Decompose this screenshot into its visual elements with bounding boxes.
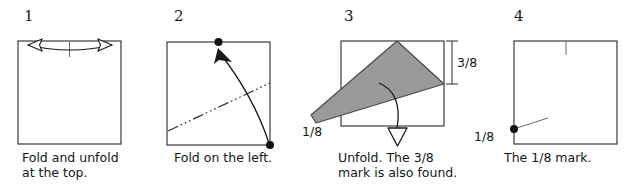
step-panel-2: 2 Fold on the left.	[158, 0, 318, 192]
reference-dot-left-edge	[510, 125, 518, 133]
step-4-diagram: 1/8	[462, 0, 636, 150]
step-panel-3: 3 3/8 1/8 Unfold. The 3/8 mark is also f…	[300, 0, 478, 192]
square-paper	[514, 41, 617, 144]
reference-dot-bottom-right	[266, 141, 274, 149]
step-2-diagram	[158, 0, 318, 150]
step-1-caption: Fold and unfold at the top.	[22, 150, 119, 180]
measure-label-one-eighth: 1/8	[302, 124, 322, 139]
step-3-caption: Unfold. The 3/8 mark is also found.	[338, 150, 457, 180]
reference-dot-top-center	[215, 38, 223, 46]
step-panel-1: 1 Fold and unfold at the top.	[0, 0, 160, 192]
step-4-caption: The 1/8 mark.	[504, 150, 592, 165]
step-1-diagram	[0, 0, 160, 150]
step-2-caption: Fold on the left.	[174, 150, 272, 165]
step-3-diagram: 3/8 1/8	[300, 0, 478, 150]
measure-label-one-eighth: 1/8	[474, 129, 494, 144]
step-panel-4: 4 1/8 The 1/8 mark.	[462, 0, 636, 192]
origami-instruction-figure: 1 Fold and unfold at the top. 2	[0, 0, 636, 192]
